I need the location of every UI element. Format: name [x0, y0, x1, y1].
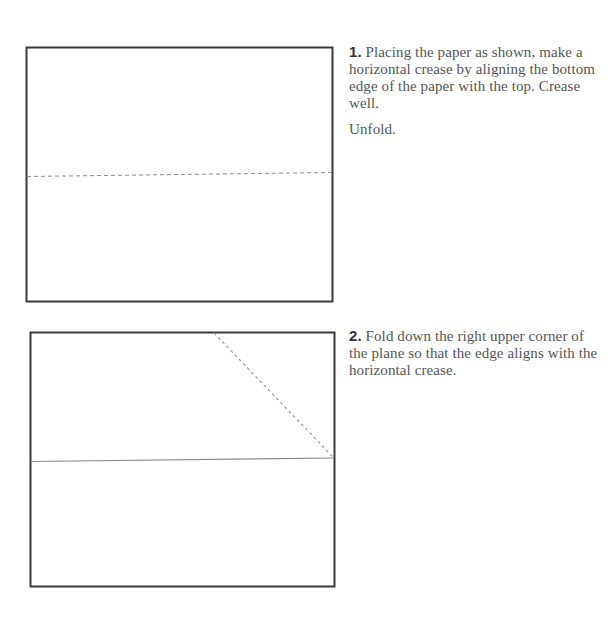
step-2-instructions: 2. Fold down the right upper corner of t…	[349, 327, 604, 388]
step-2-diagram	[0, 0, 345, 623]
paper-corner-fold-diagram	[0, 0, 345, 623]
step-1-followup: Unfold.	[349, 121, 604, 138]
step-1-text: Placing the paper as shown, make a horiz…	[349, 44, 595, 111]
step-2-number: 2.	[349, 327, 362, 344]
step-1-paragraph: 1. Placing the paper as shown, make a ho…	[349, 43, 604, 112]
step-2-paragraph: 2. Fold down the right upper corner of t…	[349, 327, 604, 379]
step-2-text: Fold down the right upper corner of the …	[349, 328, 597, 378]
step-1-instructions: 1. Placing the paper as shown, make a ho…	[349, 43, 604, 147]
step-1-number: 1.	[349, 43, 362, 60]
